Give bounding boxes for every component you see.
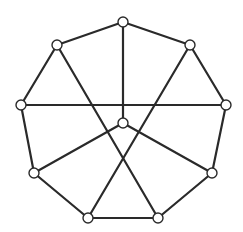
edge-center-lower-right — [123, 123, 212, 173]
node-right — [221, 100, 231, 110]
edge-top-upper-right — [123, 22, 190, 45]
edge-lower-left-left — [21, 105, 34, 173]
node-bottom-left — [83, 213, 93, 223]
node-lower-right — [207, 168, 217, 178]
edge-upper-left-top — [57, 22, 123, 45]
graph-diagram — [0, 0, 243, 232]
node-bottom-right — [153, 213, 163, 223]
edge-bottom-left-lower-left — [34, 173, 88, 218]
node-lower-left — [29, 168, 39, 178]
edge-left-upper-left — [21, 45, 57, 105]
node-upper-left — [52, 40, 62, 50]
edge-lower-right-bottom-right — [158, 173, 212, 218]
edge-right-lower-right — [212, 105, 226, 173]
node-left — [16, 100, 26, 110]
node-top — [118, 17, 128, 27]
node-center — [118, 118, 128, 128]
node-upper-right — [185, 40, 195, 50]
edge-upper-right-right — [190, 45, 226, 105]
edge-center-lower-left — [34, 123, 123, 173]
